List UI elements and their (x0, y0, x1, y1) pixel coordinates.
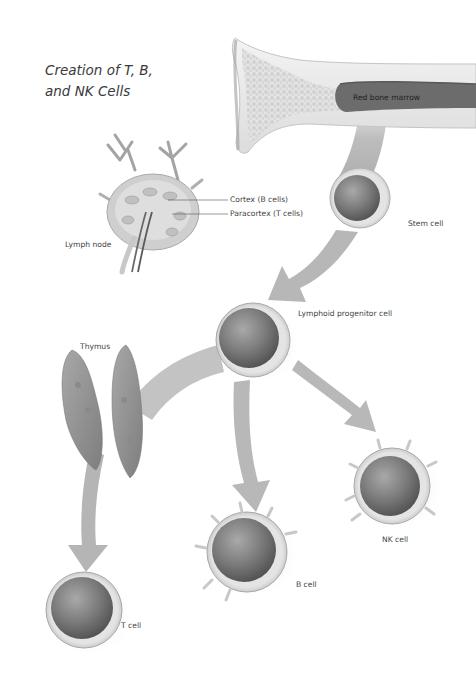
arrow-thymus-to-tcell (68, 450, 108, 572)
label-b-cell: B cell (296, 580, 317, 589)
label-stem-cell: Stem cell (408, 219, 443, 228)
arrow-stem-to-progenitor (268, 230, 358, 302)
nk-cell-illustration (346, 440, 446, 532)
label-paracortex: Paracortex (T cells) (230, 209, 303, 218)
diagram-canvas: Creation of T, B, and NK Cells Red bone … (0, 0, 476, 683)
label-thymus: Thymus (80, 342, 110, 351)
lymph-node-illustration (100, 135, 228, 272)
stem-cell-illustration (330, 168, 398, 230)
diagram-title: Creation of T, B, and NK Cells (45, 60, 153, 102)
t-cell-illustration (44, 572, 136, 657)
b-cell-illustration (196, 503, 302, 600)
arrow-progenitor-to-nkcell (292, 360, 376, 432)
label-red-bone-marrow: Red bone marrow (353, 93, 420, 102)
label-nk-cell: NK cell (382, 535, 408, 544)
title-line-2: and NK Cells (45, 81, 153, 102)
label-lymphoid-progenitor-cell: Lymphoid progenitor cell (298, 309, 392, 318)
label-t-cell: T cell (121, 621, 141, 630)
diagram-artwork (0, 0, 476, 683)
title-line-1: Creation of T, B, (45, 60, 153, 81)
arrow-progenitor-to-bcell (232, 380, 270, 512)
arrow-progenitor-to-thymus (128, 345, 224, 420)
label-lymph-node: Lymph node (65, 240, 111, 249)
lymphoid-progenitor-illustration (216, 303, 304, 384)
label-cortex: Cortex (B cells) (230, 195, 288, 204)
